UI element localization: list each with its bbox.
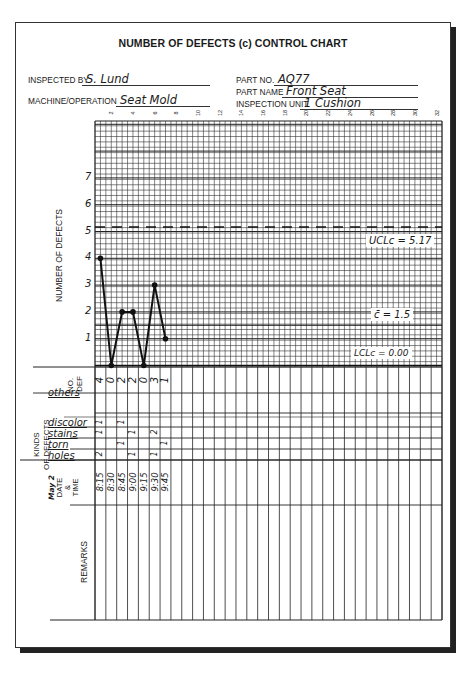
data-point: [163, 336, 169, 342]
kind-label-holes: holes: [48, 450, 75, 461]
time-cell[interactable]: 8:15: [95, 462, 105, 502]
control-chart-grid: [0, 0, 471, 676]
y-tick: 3: [85, 278, 91, 289]
no-def-cell[interactable]: 2: [128, 369, 138, 391]
no-def-cell[interactable]: 2: [117, 369, 127, 391]
tally-cell[interactable]: 1: [117, 417, 127, 427]
tally-cell[interactable]: 1: [150, 449, 160, 459]
tally-cell[interactable]: 1: [128, 449, 138, 459]
y-tick: 4: [85, 251, 91, 262]
remarks-label: REMARKS: [79, 541, 89, 583]
y-tick: 5: [85, 225, 91, 236]
lcl-label: LCLc = 0.00: [351, 347, 412, 359]
no-def-cell[interactable]: 0: [139, 369, 149, 391]
ucl-label: UCLc = 5.17: [366, 234, 434, 247]
tally-cell[interactable]: 1: [117, 438, 127, 448]
kind-label-torn: torn: [48, 439, 69, 450]
time-cell[interactable]: 8:30: [106, 462, 116, 502]
y-tick: 6: [85, 198, 91, 209]
no-def-cell[interactable]: 4: [95, 369, 105, 391]
data-point: [98, 255, 104, 261]
tally-cell[interactable]: 2: [95, 449, 105, 459]
y-axis-label: NUMBER OF DEFECTS: [54, 209, 64, 302]
data-point: [119, 309, 125, 315]
y-tick: 2: [85, 305, 91, 316]
y-tick: 7: [85, 171, 91, 182]
data-point: [130, 309, 136, 315]
y-tick: 1: [85, 332, 91, 343]
time-cell[interactable]: 9:30: [150, 462, 160, 502]
time-cell[interactable]: 8:45: [117, 462, 127, 502]
date-time-label: May 2DATE&TIME: [48, 475, 80, 500]
no-def-cell[interactable]: 1: [160, 369, 170, 391]
kind-label-discolor: discolor: [48, 417, 87, 428]
data-point: [108, 363, 114, 369]
center-line-label: c̄ = 1.5: [371, 308, 413, 321]
data-point: [152, 282, 158, 288]
tally-cell[interactable]: 1: [128, 427, 138, 437]
time-cell[interactable]: 9:00: [128, 462, 138, 502]
tally-cell[interactable]: 1: [95, 417, 105, 427]
no-def-cell[interactable]: 0: [106, 369, 116, 391]
data-point: [141, 363, 147, 369]
kind-label-others: others: [48, 387, 80, 398]
tally-cell[interactable]: 2: [150, 427, 160, 437]
kind-label-stains: stains: [48, 428, 78, 439]
tally-cell[interactable]: 1: [160, 438, 170, 448]
tally-cell[interactable]: 1: [95, 427, 105, 437]
time-cell[interactable]: 9:45: [160, 462, 170, 502]
time-cell[interactable]: 9:15: [139, 462, 149, 502]
